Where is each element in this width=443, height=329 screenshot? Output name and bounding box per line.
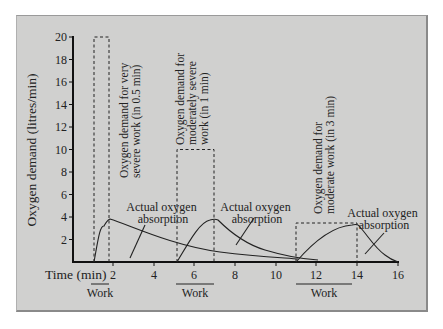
svg-text:16: 16 — [392, 268, 404, 282]
demand-annotation-2: Oxygen demand for moderately severe work… — [174, 50, 211, 145]
work-label-3: Work — [311, 286, 337, 300]
demand-moderate — [296, 223, 357, 262]
work-label-1: Work — [87, 286, 113, 300]
absorption-label-3: Actual oxygen absorption — [347, 206, 420, 232]
svg-text:4: 4 — [151, 268, 157, 282]
pointer-1 — [130, 225, 145, 258]
svg-text:6: 6 — [191, 268, 197, 282]
absorption-label-1: Actual oxygen absorption — [126, 200, 199, 226]
y-axis-label: Oxygen demand (litres/min) — [24, 74, 39, 227]
demand-annotation-3: Oxygen demand for moderate work (in 3 mi… — [312, 96, 337, 214]
svg-text:16: 16 — [55, 75, 67, 89]
svg-text:12: 12 — [55, 120, 67, 134]
x-tick-labels: 2 4 6 8 10 12 14 16 — [110, 268, 404, 282]
svg-text:18: 18 — [55, 53, 67, 67]
work-label-2: Work — [182, 286, 208, 300]
svg-text:6: 6 — [61, 188, 67, 202]
y-tick-labels: 2 4 6 8 10 12 14 16 18 20 — [55, 30, 67, 247]
x-axis-label: Time (min) — [45, 267, 106, 282]
svg-text:2: 2 — [61, 233, 67, 247]
svg-text:20: 20 — [55, 30, 67, 44]
svg-text:8: 8 — [232, 268, 238, 282]
svg-text:12: 12 — [310, 268, 322, 282]
svg-text:14: 14 — [351, 268, 363, 282]
demand-annotation-1: Oxygen demand for very severe work (in 0… — [118, 60, 143, 178]
work-markers: Work Work Work — [87, 284, 352, 300]
svg-text:4: 4 — [61, 210, 67, 224]
absorption-label-2: Actual oxygen absorption — [220, 200, 293, 226]
svg-text:10: 10 — [270, 268, 282, 282]
svg-text:8: 8 — [61, 165, 67, 179]
oxygen-demand-chart: Oxygen demand (litres/min) 2 4 6 8 10 12… — [0, 0, 443, 329]
svg-text:2: 2 — [110, 268, 116, 282]
svg-text:10: 10 — [55, 143, 67, 157]
svg-text:14: 14 — [55, 98, 67, 112]
